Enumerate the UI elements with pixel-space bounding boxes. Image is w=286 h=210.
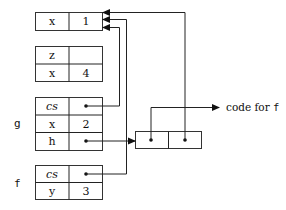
var-name: x (49, 67, 56, 80)
var-name: y (48, 185, 56, 198)
code-label: code for f (226, 101, 279, 113)
var-name: cs (46, 100, 58, 113)
var-value: 1 (83, 15, 90, 28)
frame-f: f cs y 3 (14, 166, 103, 200)
frame-label: g (14, 117, 21, 130)
var-value: 3 (83, 185, 90, 198)
environment-diagram: x 1 z x 4 g cs x 2 h f cs y 3 (0, 0, 286, 210)
var-value: 2 (83, 118, 90, 131)
var-name: x (49, 15, 56, 28)
frame-g: g cs x 2 h (14, 98, 103, 151)
frame-label: f (14, 177, 21, 190)
closure-box (136, 132, 202, 149)
frame-2: z x 4 (36, 47, 103, 82)
frame-global: x 1 (36, 13, 103, 31)
var-value: 4 (83, 67, 90, 80)
var-name: h (48, 135, 55, 148)
var-name: x (49, 118, 56, 131)
var-name: cs (46, 168, 58, 181)
var-name: z (49, 49, 55, 62)
arrow-closure-env (103, 13, 185, 141)
